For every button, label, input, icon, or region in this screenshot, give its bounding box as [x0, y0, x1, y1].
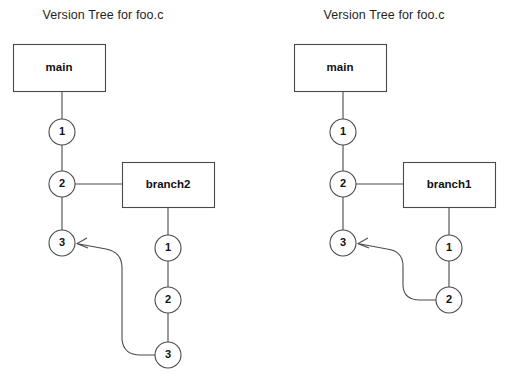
right-branch-node-2[interactable]	[436, 287, 462, 313]
left-branch-node-3[interactable]	[155, 342, 181, 368]
left-branch-node-1[interactable]	[155, 235, 181, 261]
left-branch-node-2[interactable]	[155, 287, 181, 313]
left-trunk-node-1[interactable]	[49, 119, 75, 145]
left-main-box[interactable]	[14, 45, 106, 92]
left-trunk-node-2[interactable]	[49, 171, 75, 197]
left-merge-arrowhead-icon	[77, 238, 88, 248]
right-merge-arrowhead-icon	[358, 238, 369, 248]
right-main-box[interactable]	[295, 45, 387, 92]
right-branch-box[interactable]	[404, 163, 496, 208]
version-tree-svg	[0, 0, 510, 381]
diagram-left	[14, 45, 215, 369]
right-branch-node-1[interactable]	[436, 235, 462, 261]
left-trunk-node-3[interactable]	[49, 230, 75, 256]
right-merge-arrow-path	[360, 244, 436, 300]
diagram-right	[295, 45, 496, 314]
left-diagram-title: Version Tree for foo.c	[13, 8, 193, 22]
right-trunk-node-3[interactable]	[330, 230, 356, 256]
right-diagram-title: Version Tree for foo.c	[294, 8, 474, 22]
left-branch-box[interactable]	[123, 163, 215, 208]
left-merge-arrow-path	[79, 244, 155, 355]
right-trunk-node-1[interactable]	[330, 119, 356, 145]
diagram-canvas: Version Tree for foo.c main 1 2 3 branch…	[0, 0, 510, 381]
right-trunk-node-2[interactable]	[330, 171, 356, 197]
